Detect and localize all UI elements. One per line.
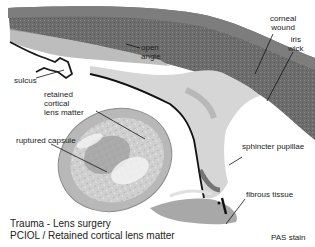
stain-label: PAS stain xyxy=(271,233,306,242)
label-ruptured-capsule: ruptured capsule xyxy=(16,136,76,145)
figure-caption: Trauma - Lens surgery PCIOL / Retained c… xyxy=(10,218,175,242)
label-fibrous-tissue: fibrous tissue xyxy=(246,190,293,199)
label-retained-cortical-lens-matter: retained cortical lens matter xyxy=(44,90,84,117)
histology-figure: corneal wound iris wick open angle sulcu… xyxy=(0,0,315,247)
label-open-angle: open angle xyxy=(141,43,161,61)
label-iris-wick: iris wick xyxy=(288,35,304,53)
micrograph-image xyxy=(0,0,315,247)
label-corneal-wound: corneal wound xyxy=(270,14,296,32)
label-sulcus: sulcus xyxy=(14,76,37,85)
label-sphincter-pupillae: sphincter pupillae xyxy=(242,142,304,151)
